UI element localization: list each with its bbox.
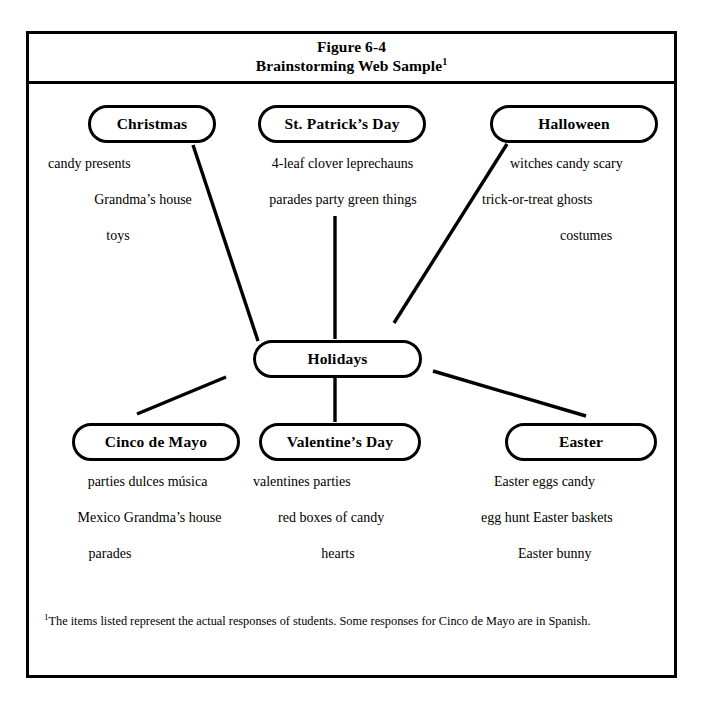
- node-christmas-label: Christmas: [117, 115, 188, 133]
- leaf-valentines-day-row-1: valentines parties: [253, 473, 428, 490]
- leaf-cinco-de-mayo-row-3: parades: [45, 545, 175, 562]
- footnote-text: The items listed represent the actual re…: [49, 614, 591, 628]
- leaf-christmas-row-3: toys: [48, 227, 188, 244]
- leaf-halloween-row-2: trick-or-treat ghosts: [482, 191, 662, 208]
- figure-title-line-2: Brainstorming Web Sample1: [256, 56, 448, 75]
- leaf-valentines-day-row-3: hearts: [263, 545, 413, 562]
- figure-title-text: Brainstorming Web Sample: [256, 57, 442, 74]
- node-christmas[interactable]: Christmas: [88, 105, 216, 143]
- node-holidays-label: Holidays: [307, 350, 367, 368]
- node-halloween-label: Halloween: [538, 115, 610, 133]
- node-halloween[interactable]: Halloween: [490, 105, 658, 143]
- figure-title-band: Figure 6-4 Brainstorming Web Sample1: [26, 31, 677, 84]
- leaf-st-patricks-day-row-1: 4-leaf clover leprechauns: [240, 155, 445, 172]
- leaf-easter-row-2: egg hunt Easter baskets: [481, 509, 666, 526]
- leaf-st-patricks-day-row-2: parades party green things: [238, 191, 448, 208]
- figure-container: Figure 6-4 Brainstorming Web Sample1 Chr…: [0, 0, 709, 705]
- node-holidays[interactable]: Holidays: [253, 340, 422, 378]
- node-st-patricks-day-label: St. Patrick’s Day: [284, 115, 399, 133]
- leaf-christmas-row-2: Grandma’s house: [48, 191, 238, 208]
- figure-title-line-1: Figure 6-4: [317, 37, 386, 56]
- leaf-christmas-row-1: candy presents: [48, 155, 238, 172]
- node-easter[interactable]: Easter: [505, 423, 657, 461]
- node-cinco-de-mayo[interactable]: Cinco de Mayo: [72, 423, 240, 461]
- node-easter-label: Easter: [559, 433, 603, 451]
- leaf-valentines-day-row-2: red boxes of candy: [278, 509, 458, 526]
- leaf-halloween-row-3: costumes: [560, 227, 680, 244]
- leaf-cinco-de-mayo-row-1: parties dulces música: [45, 473, 250, 490]
- leaf-easter-row-1: Easter eggs candy: [494, 473, 669, 490]
- node-valentines-day[interactable]: Valentine’s Day: [259, 423, 421, 461]
- leaf-cinco-de-mayo-row-2: Mexico Grandma’s house: [42, 509, 257, 526]
- leaf-easter-row-3: Easter bunny: [518, 545, 658, 562]
- node-valentines-day-label: Valentine’s Day: [287, 433, 393, 451]
- figure-title-footnote-marker: 1: [442, 56, 447, 67]
- leaf-halloween-row-1: witches candy scary: [510, 155, 670, 172]
- figure-footnote: 1The items listed represent the actual r…: [44, 612, 654, 630]
- node-cinco-de-mayo-label: Cinco de Mayo: [105, 433, 207, 451]
- node-st-patricks-day[interactable]: St. Patrick’s Day: [258, 105, 426, 143]
